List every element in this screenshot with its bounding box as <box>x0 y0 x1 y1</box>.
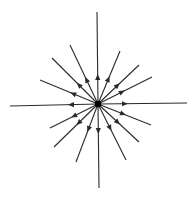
arrowhead-icon <box>96 128 101 134</box>
field-line-upper-left-3 <box>40 80 98 104</box>
field-line-upper-left-2 <box>52 58 98 104</box>
field-line-up <box>97 12 98 104</box>
field-lines <box>10 12 187 188</box>
field-line-lower-left-2 <box>54 104 98 147</box>
field-line-left <box>10 104 98 106</box>
arrowhead-icon <box>87 126 92 133</box>
arrowhead-icon <box>95 74 100 80</box>
field-lines-diagram <box>0 0 193 198</box>
field-line-down <box>98 104 99 188</box>
arrowhead-icon <box>119 110 126 115</box>
arrowhead-icon <box>122 101 128 106</box>
field-line-lower-left-3 <box>76 104 98 162</box>
arrowhead-icon <box>68 102 74 107</box>
field-line-right <box>98 103 187 104</box>
point-charge <box>95 101 101 107</box>
